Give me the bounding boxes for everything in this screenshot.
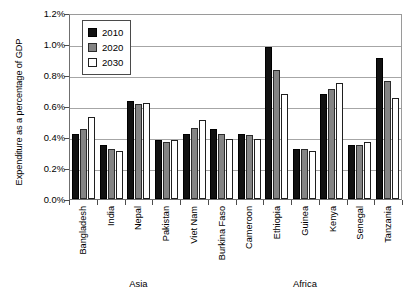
legend-item: 2030 — [88, 55, 123, 70]
x-axis-tick-mark — [291, 200, 292, 205]
bar — [210, 129, 217, 199]
bar-group — [291, 15, 319, 199]
x-axis-category-cell: Pakistan — [152, 206, 180, 276]
x-axis-tick-mark — [236, 200, 237, 205]
y-axis-tick-label: 1.0% — [19, 40, 65, 49]
bar-group — [153, 15, 181, 199]
x-axis-category-label: India — [106, 206, 115, 226]
x-axis-tick-mark — [347, 200, 348, 205]
bar — [155, 140, 162, 199]
bar — [163, 142, 170, 199]
legend-item-label: 2010 — [102, 28, 123, 38]
bar-group — [346, 15, 374, 199]
bar — [108, 149, 115, 199]
x-axis-category-cell: Kenya — [319, 206, 347, 276]
x-axis-tick-mark — [152, 200, 153, 205]
x-axis-category-cell: Bangladesh — [69, 206, 97, 276]
x-axis-category-label: Tanzania — [384, 206, 393, 243]
y-axis-tick-label: 0.0% — [19, 195, 65, 204]
x-axis-category-label: Senegal — [356, 206, 365, 240]
x-axis-category-label: Kenya — [328, 206, 337, 232]
x-axis-category-cell: Nepal — [125, 206, 153, 276]
x-axis-category-label: Ethiopia — [273, 206, 282, 239]
bar — [281, 94, 288, 199]
bar — [309, 151, 316, 199]
white-square-swatch-icon — [88, 58, 97, 67]
bar — [336, 83, 343, 199]
x-axis-category-cell: Ethiopia — [263, 206, 291, 276]
bar — [356, 145, 363, 199]
bar — [199, 120, 206, 199]
x-axis-category-cell: Burkina Faso — [208, 206, 236, 276]
bar — [80, 129, 87, 199]
x-axis-category-label: Burkina Faso — [217, 206, 226, 260]
bar — [135, 104, 142, 199]
region-label: Asia — [69, 278, 208, 289]
x-axis-tick-mark — [69, 200, 70, 205]
bar — [273, 70, 280, 199]
bar — [246, 135, 253, 199]
bar — [364, 142, 371, 199]
bar-group — [180, 15, 208, 199]
bar — [88, 117, 95, 199]
bar — [183, 134, 190, 199]
x-axis-category-label: Nepal — [134, 206, 143, 230]
bar — [254, 139, 261, 199]
y-axis-tick-label: 0.6% — [19, 102, 65, 111]
black-square-swatch-icon — [88, 28, 97, 37]
region-group-labels: AsiaAfrica — [69, 278, 402, 292]
bar — [392, 98, 399, 199]
legend-item: 2020 — [88, 40, 123, 55]
bar — [376, 58, 383, 199]
x-axis-category-label: Cameroon — [245, 206, 254, 249]
y-axis-tick-label: 0.2% — [19, 164, 65, 173]
x-axis-category-label: Bangladesh — [78, 206, 87, 255]
bar — [171, 140, 178, 199]
x-axis-category-cell: Tanzania — [374, 206, 402, 276]
legend-item-label: 2030 — [102, 58, 123, 68]
x-axis-tick-mark — [125, 200, 126, 205]
bar — [328, 89, 335, 199]
x-axis-tick-mark — [319, 200, 320, 205]
x-axis-category-cell: India — [97, 206, 125, 276]
bar-group — [373, 15, 401, 199]
gray-square-swatch-icon — [88, 43, 97, 52]
bar-group — [263, 15, 291, 199]
x-axis-category-cell: Viet Nam — [180, 206, 208, 276]
x-axis-tick-mark — [180, 200, 181, 205]
bar — [320, 94, 327, 199]
x-axis-category-cell: Cameroon — [236, 206, 264, 276]
legend-item-label: 2020 — [102, 43, 123, 53]
x-axis-category-label: Pakistan — [162, 206, 171, 241]
y-axis-tick-label: 1.2% — [19, 9, 65, 18]
x-axis-tick-mark — [402, 200, 403, 205]
x-axis-category-label: Guinea — [300, 206, 309, 236]
bar — [293, 149, 300, 199]
bar — [191, 128, 198, 199]
x-axis-tick-mark — [97, 200, 98, 205]
bar — [72, 134, 79, 199]
bar — [348, 145, 355, 199]
x-axis-category-labels: BangladeshIndiaNepalPakistanViet NamBurk… — [69, 206, 402, 276]
bar — [265, 47, 272, 199]
bar-chart: Expenditure as a percentage of GDP 0.0%0… — [0, 0, 417, 308]
legend-item: 2010 — [88, 25, 123, 40]
x-axis-tick-mark — [374, 200, 375, 205]
x-axis-category-cell: Senegal — [347, 206, 375, 276]
y-axis-tick-label: 0.4% — [19, 133, 65, 142]
y-axis-tick-label: 0.8% — [19, 71, 65, 80]
x-axis-tick-mark — [208, 200, 209, 205]
bar — [301, 149, 308, 199]
bar — [218, 134, 225, 199]
region-label: Africa — [208, 278, 402, 289]
bar — [238, 134, 245, 199]
bar — [226, 139, 233, 199]
legend: 2010 2020 2030 — [82, 20, 131, 75]
x-axis-category-cell: Guinea — [291, 206, 319, 276]
bar-group — [235, 15, 263, 199]
bar-group — [208, 15, 236, 199]
bar — [143, 103, 150, 199]
bar-group — [318, 15, 346, 199]
x-axis-category-label: Viet Nam — [189, 206, 198, 244]
bar — [127, 101, 134, 199]
